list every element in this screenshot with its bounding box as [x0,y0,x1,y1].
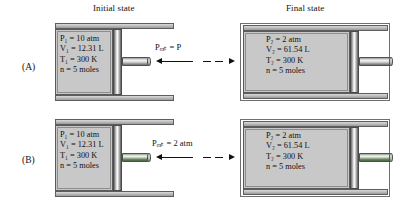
column-header-final-state: Final state [286,3,324,13]
piston-head [350,31,359,93]
temperature-value: T₂ = 300 K [266,56,310,66]
piston-rod-cap [147,153,151,162]
transition-arrow-a [203,58,235,65]
final-state-values-a: P₂ = 2 atm V₂ = 61.54 L T₂ = 300 K n = 5… [266,35,310,77]
piston-rod [122,153,150,162]
arrow-shaft [161,61,193,62]
initial-state-values-a: P₁ = 10 atm V₁ = 12.31 L T₁ = 300 K n = … [60,34,104,76]
piston-rod-cap [389,153,393,162]
column-header-initial-state: Initial state [93,3,135,13]
diagram-canvas: Initial state Final state (A) P₁ = 10 at… [0,0,402,210]
force-arrow-b [156,154,193,161]
volume-value: V₁ = 12.31 L [60,140,104,150]
moles-value: n = 5 moles [266,66,310,76]
piston-rod-cap [147,57,151,66]
pressure-value: P₂ = 2 atm [266,131,310,141]
piston-head [113,29,122,95]
piston-rod [359,153,392,162]
external-pressure-label-a: Pₑₓₜ = P [155,42,181,52]
cylinder-bottom-flange [55,95,174,101]
transition-arrow-b [203,154,235,161]
arrowhead-icon [229,154,235,160]
force-arrow-a [156,58,193,65]
piston-head [113,125,122,191]
cylinder-bottom-flange [55,191,174,197]
cylinder-bottom-flange [243,93,388,99]
row-label-b: (B) [22,155,35,165]
pressure-value: P₁ = 10 atm [60,34,104,44]
temperature-value: T₂ = 300 K [266,152,310,162]
cylinder-bottom-flange [243,189,388,195]
volume-value: V₂ = 61.54 L [266,141,310,151]
temperature-value: T₁ = 300 K [60,151,104,161]
volume-value: V₂ = 61.54 L [266,45,310,55]
arrow-dash [203,157,211,159]
arrowhead-icon [229,58,235,64]
pressure-value: P₁ = 10 atm [60,130,104,140]
arrow-dash [215,157,223,159]
moles-value: n = 5 moles [60,65,104,75]
arrow-dash [215,61,223,63]
arrow-dash [203,61,211,63]
volume-value: V₁ = 12.31 L [60,44,104,54]
external-pressure-label-b: Pₑₓₜ = 2 atm [152,138,193,148]
piston-head [350,127,359,189]
pressure-value: P₂ = 2 atm [266,35,310,45]
moles-value: n = 5 moles [60,161,104,171]
initial-state-values-b: P₁ = 10 atm V₁ = 12.31 L T₁ = 300 K n = … [60,130,104,172]
final-state-values-b: P₂ = 2 atm V₂ = 61.54 L T₂ = 300 K n = 5… [266,131,310,173]
piston-rod-cap [389,57,393,66]
piston-rod [122,57,150,66]
temperature-value: T₁ = 300 K [60,55,104,65]
row-label-a: (A) [22,62,35,72]
piston-rod [359,57,392,66]
moles-value: n = 5 moles [266,162,310,172]
arrow-shaft [161,157,193,158]
